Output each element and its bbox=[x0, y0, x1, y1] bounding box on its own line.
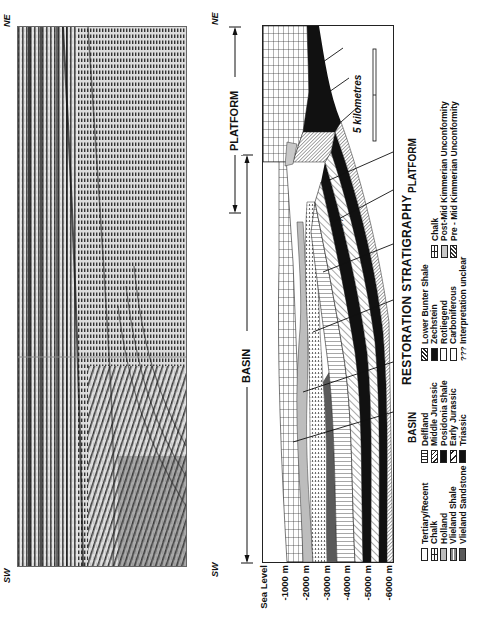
scale-bar-label: 5 kilometres bbox=[352, 75, 363, 133]
swatch-icon bbox=[440, 450, 447, 463]
scale-bar bbox=[370, 43, 380, 143]
depth-tick-4: -4000 m bbox=[341, 565, 352, 600]
seismic-texture bbox=[18, 27, 186, 566]
swatch-icon bbox=[450, 450, 457, 463]
figure-canvas: SW NE bbox=[0, 0, 480, 623]
seismic-ne-label: NE bbox=[2, 14, 12, 27]
swatch-icon bbox=[421, 450, 428, 463]
legend-item-holland: Holland bbox=[439, 466, 449, 561]
depth-tick-0: Sea Level bbox=[258, 565, 269, 609]
legend-platform: Chalk Post-Mid Kimmerian Unconformity Pr… bbox=[430, 101, 459, 258]
legend-item-chalk: Chalk bbox=[430, 466, 440, 561]
swatch-icon bbox=[431, 348, 438, 361]
depth-tick-3: -3000 m bbox=[321, 565, 332, 600]
legend-basin-lower: Lower Bunter Shale Zechstein Rotliegend … bbox=[420, 257, 468, 361]
swatch-icon bbox=[431, 245, 438, 258]
swatch-icon bbox=[459, 450, 466, 463]
swatch-icon bbox=[450, 548, 457, 561]
legend-item-post-mid-kimmerian: Post-Mid Kimmerian Unconformity bbox=[440, 101, 450, 258]
legend-basin: Delfland Middle Jurassic Posidonia Shale… bbox=[420, 380, 468, 463]
swatch-icon bbox=[421, 548, 428, 561]
legend-general: Tertiary/Recent Chalk Holland Vlieland S… bbox=[420, 466, 468, 561]
legend-platform-title: PLATFORM bbox=[407, 138, 418, 193]
swatch-icon bbox=[440, 548, 447, 561]
interpretation-unclear-marker: ??? bbox=[336, 217, 345, 232]
legend-item-vlieland-shale: Vlieland Shale bbox=[449, 466, 459, 561]
legend-title: RESTORATION STRATIGRAPHY bbox=[400, 194, 414, 385]
legend-item-platform-chalk: Chalk bbox=[430, 101, 440, 258]
seismic-reflection-image bbox=[17, 26, 187, 567]
depth-tick-2: -2000 m bbox=[300, 565, 311, 600]
depth-tick-6: -6000 m bbox=[383, 565, 394, 600]
depth-axis: Sea Level -1000 m -2000 m -3000 m -4000 … bbox=[262, 565, 392, 617]
legend-item-carboniferous: Carboniferous bbox=[449, 257, 459, 361]
swatch-icon bbox=[459, 548, 466, 561]
legend-item-rotliegend: Rotliegend bbox=[439, 257, 449, 361]
depth-tick-5: -5000 m bbox=[362, 565, 373, 600]
legend-item-vlieland-sandstone: Vlieland Sandstone bbox=[458, 466, 468, 561]
platform-label: PLATFORM bbox=[228, 91, 240, 151]
swatch-icon bbox=[431, 548, 438, 561]
legend-item-posidonia-shale: Posidonia Shale bbox=[439, 380, 449, 463]
legend-item-early-jurassic: Early Jurassic bbox=[449, 380, 459, 463]
swatch-icon bbox=[441, 245, 448, 258]
legend-item-delfland: Delfland bbox=[420, 380, 430, 463]
depth-tick-1: -1000 m bbox=[279, 565, 290, 600]
legend-item-tertiary: Tertiary/Recent bbox=[420, 466, 430, 561]
swatch-icon bbox=[431, 450, 438, 463]
legend-basin-title: BASIN bbox=[407, 412, 418, 443]
legend-item-lower-bunter-shale: Lower Bunter Shale bbox=[420, 257, 430, 361]
swatch-icon bbox=[450, 348, 457, 361]
legend-item-pre-mid-kimmerian: Pre - Mid Kimmerian Unconformity bbox=[449, 101, 459, 258]
legend-item-triassic: Triassic bbox=[458, 380, 468, 463]
swatch-icon bbox=[421, 348, 428, 361]
swatch-icon bbox=[440, 348, 447, 361]
legend-item-middle-jurassic: Middle Jurassic bbox=[430, 380, 440, 463]
swatch-icon bbox=[450, 245, 457, 258]
seismic-sw-label: SW bbox=[2, 569, 12, 584]
question-marks-icon: ??? bbox=[459, 348, 466, 361]
basin-label: BASIN bbox=[240, 349, 252, 383]
legend-item-zechstein: Zechstein bbox=[430, 257, 440, 361]
legend-item-interpretation-unclear: ???Interpretation unclear bbox=[458, 257, 468, 361]
section-sw-label: SW bbox=[210, 563, 220, 578]
section-ne-label: NE bbox=[210, 12, 220, 25]
